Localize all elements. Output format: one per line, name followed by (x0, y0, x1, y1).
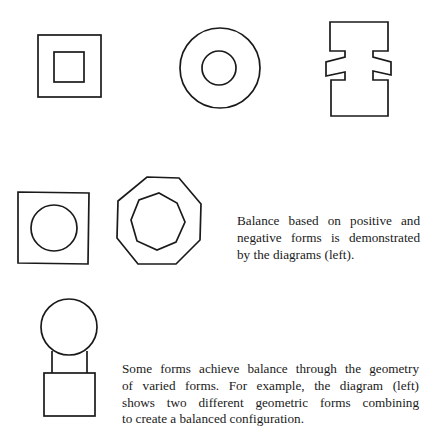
circle-on-square-figure (41, 299, 97, 416)
caption-varied-forms: Some forms achieve balance through the g… (122, 361, 419, 428)
caption-line: by the diagrams (left). (237, 247, 420, 264)
inner-circle (202, 51, 236, 85)
notched-i-shape (326, 22, 391, 116)
bottom-square (44, 373, 95, 416)
caption-line: Balance based on positive and (237, 213, 420, 230)
inner-square (54, 52, 84, 82)
caption-line: of varied forms. For example, the diagra… (122, 378, 419, 395)
circle-in-square-figure (18, 192, 89, 264)
outer-circle (180, 28, 260, 108)
nested-squares-figure (38, 35, 101, 97)
outer-octagon (117, 177, 201, 264)
caption-line: to create a balanced configuration. (122, 411, 419, 428)
caption-line: negative forms is demonstrated (237, 230, 420, 247)
notched-i-shape-figure (326, 22, 391, 116)
caption-line: shows two different geometric forms comb… (122, 395, 419, 412)
nested-octagons-figure (117, 177, 201, 264)
inner-circle (31, 205, 77, 251)
concentric-circles-figure (180, 28, 260, 108)
outer-square (38, 35, 101, 97)
outer-square (18, 192, 89, 264)
inner-octagon (131, 193, 185, 250)
caption-line: Some forms achieve balance through the g… (122, 361, 419, 378)
caption-positive-negative: Balance based on positive and negative f… (237, 213, 420, 263)
top-circle (41, 299, 97, 355)
